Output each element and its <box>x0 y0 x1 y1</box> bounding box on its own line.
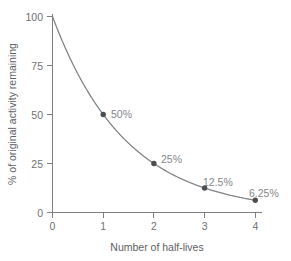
data-point-marker <box>101 112 106 117</box>
y-tick-label-0: 0 <box>37 207 43 219</box>
chart-canvas: 100 75 50 25 0 0 1 2 3 4 50% 25% 12.5% 6… <box>0 0 291 261</box>
x-tick-label-3: 3 <box>202 220 208 232</box>
y-tick-label-100: 100 <box>25 11 43 23</box>
y-tick-label-25: 25 <box>31 158 43 170</box>
data-point-marker <box>151 161 156 166</box>
y-tick-label-75: 75 <box>31 60 43 72</box>
point-label-6-25-percent: 6.25% <box>249 187 279 199</box>
decay-curve <box>53 17 256 201</box>
point-label-50-percent: 50% <box>111 108 132 120</box>
y-tick-label-50: 50 <box>31 109 43 121</box>
x-tick-label-4: 4 <box>252 220 258 232</box>
x-tick-label-1: 1 <box>100 220 106 232</box>
x-tick-label-0: 0 <box>50 220 56 232</box>
point-label-12-5-percent: 12.5% <box>203 176 233 188</box>
x-axis-title: Number of half-lives <box>110 241 203 253</box>
point-label-25-percent: 25% <box>161 153 182 165</box>
x-tick-label-2: 2 <box>151 220 157 232</box>
y-axis-title: % of original activity remaining <box>6 43 18 185</box>
half-life-decay-chart: 100 75 50 25 0 0 1 2 3 4 50% 25% 12.5% 6… <box>0 0 291 261</box>
